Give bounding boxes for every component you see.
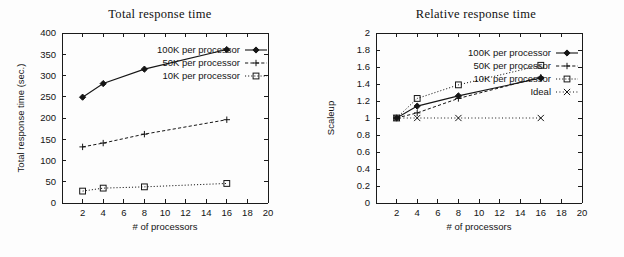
y-axis-label: Total response time (sec.)	[15, 64, 26, 173]
y-tick-label: 0.4	[357, 163, 370, 174]
x-tick-label: 12	[180, 207, 191, 218]
x-axis-label: # of processors	[133, 221, 198, 232]
x-tick-label: 16	[536, 207, 547, 218]
figure-page: Total response time050100150200250300350…	[0, 0, 624, 257]
y-tick-label: 350	[40, 49, 56, 60]
x-tick-label: 8	[456, 207, 461, 218]
legend-label: 10K per processor	[473, 73, 551, 84]
data-point-marker-plus	[79, 144, 85, 150]
data-point-marker-diamond-filled	[141, 66, 147, 72]
x-axis-label: # of processors	[447, 221, 512, 232]
y-tick-label: 1	[365, 112, 370, 123]
x-tick-label: 18	[242, 207, 253, 218]
data-point-marker-diamond-filled	[564, 50, 570, 56]
chart-canvas-right: Relative response time00.20.40.60.811.21…	[312, 0, 624, 257]
chart-canvas-left: Total response time050100150200250300350…	[0, 0, 312, 257]
legend-label: 10K per processor	[162, 70, 240, 81]
y-tick-label: 150	[40, 134, 56, 145]
y-tick-label: 1.8	[357, 44, 370, 55]
legend-label: 50K per processor	[473, 60, 551, 71]
y-tick-label: 200	[40, 112, 56, 123]
chart-legend: 100K per processor50K per processor10K p…	[157, 44, 267, 81]
series-line	[83, 183, 227, 191]
x-tick-label: 20	[577, 207, 588, 218]
x-tick-label: 20	[263, 207, 274, 218]
legend-label: 50K per processor	[162, 57, 240, 68]
y-tick-label: 0.8	[357, 129, 370, 140]
y-tick-label: 1.6	[357, 61, 370, 72]
x-tick-label: 4	[415, 207, 420, 218]
x-tick-label: 10	[160, 207, 171, 218]
series-4	[394, 115, 544, 121]
chart-title: Relative response time	[416, 7, 537, 21]
data-point-marker-diamond-filled	[253, 47, 259, 53]
x-tick-label: 6	[435, 207, 440, 218]
series-2	[79, 117, 230, 151]
x-tick-label: 6	[121, 207, 126, 218]
y-tick-label: 1.2	[357, 95, 370, 106]
y-tick-label: 0.2	[357, 180, 370, 191]
data-point-marker-plus	[141, 131, 147, 137]
x-tick-label: 2	[394, 207, 399, 218]
y-tick-label: 100	[40, 155, 56, 166]
chart-title: Total response time	[108, 7, 212, 21]
data-point-marker-diamond-filled	[414, 103, 420, 109]
data-point-marker-square-open	[224, 181, 230, 187]
x-tick-label: 10	[474, 207, 485, 218]
y-tick-label: 2	[365, 27, 370, 38]
data-point-marker-cross	[455, 115, 461, 121]
data-point-marker-plus	[564, 63, 570, 69]
x-tick-label: 14	[515, 207, 526, 218]
legend-label: Ideal	[530, 86, 551, 97]
chart-total-response-time: Total response time050100150200250300350…	[0, 0, 312, 257]
legend-label: 100K per processor	[157, 44, 240, 55]
chart-relative-response-time: Relative response time00.20.40.60.811.21…	[312, 0, 624, 257]
y-tick-label: 0.6	[357, 146, 370, 157]
y-tick-label: 1.4	[357, 78, 370, 89]
x-tick-label: 4	[101, 207, 106, 218]
y-tick-label: 50	[45, 176, 56, 187]
data-point-marker-diamond-filled	[80, 94, 86, 100]
y-tick-label: 250	[40, 91, 56, 102]
data-point-marker-plus	[224, 117, 230, 123]
x-tick-label: 2	[80, 207, 85, 218]
data-point-marker-diamond-filled	[100, 80, 106, 86]
legend-label: 100K per processor	[468, 47, 551, 58]
data-point-marker-plus	[253, 60, 259, 66]
y-axis-label: Scaleup	[325, 101, 336, 135]
data-point-marker-plus	[100, 140, 106, 146]
x-tick-label: 8	[142, 207, 147, 218]
series-3	[80, 181, 230, 194]
x-tick-label: 18	[556, 207, 567, 218]
data-point-marker-cross	[538, 115, 544, 121]
y-tick-label: 0	[365, 197, 370, 208]
x-tick-label: 14	[201, 207, 212, 218]
x-tick-label: 16	[222, 207, 233, 218]
y-tick-label: 0	[51, 197, 56, 208]
y-tick-label: 300	[40, 70, 56, 81]
x-tick-label: 12	[494, 207, 505, 218]
data-point-marker-cross	[564, 89, 570, 95]
y-tick-label: 400	[40, 27, 56, 38]
